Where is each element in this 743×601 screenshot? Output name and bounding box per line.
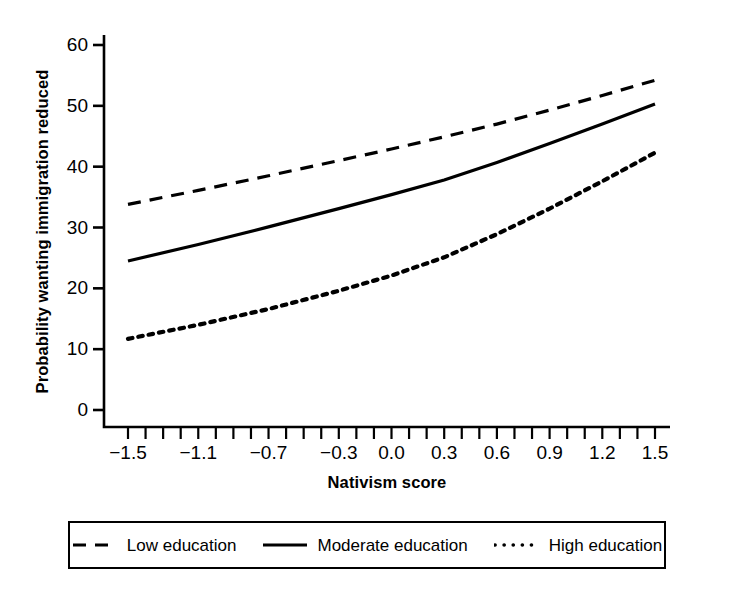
legend-line-swatch-dashed [72,540,118,550]
y-tick-label: 50 [44,96,88,115]
series-line [128,153,655,339]
y-tick-label: 40 [44,157,88,176]
y-tick-label: 0 [44,400,88,419]
series-line [128,104,655,261]
series-line [128,80,655,204]
legend-line-swatch-dotted [494,540,540,550]
plot-area [0,0,743,601]
x-tick-label: −1.5 [93,443,163,462]
y-tick-label: 10 [44,339,88,358]
x-axis-title: Nativism score [104,473,670,492]
x-tick-label-group: −1.5−1.1−0.7−0.30.00.30.60.91.21.5 [0,443,743,469]
y-tick-label-group: 0102030405060 [44,0,88,601]
legend-entry[interactable]: Moderate education [262,537,467,554]
x-tick-label: −0.7 [234,443,304,462]
axis-ticks [93,45,655,439]
x-tick-label: 1.5 [620,443,690,462]
legend-items: Low educationModerate educationHigh educ… [72,537,662,554]
y-tick-label: 30 [44,218,88,237]
legend: Low educationModerate educationHigh educ… [68,521,666,569]
legend-entry[interactable]: High education [494,537,662,554]
y-tick-label: 60 [44,35,88,54]
y-tick-label: 20 [44,278,88,297]
legend-label: Low education [127,537,237,554]
chart-figure: Probability wanting immigration reduced … [0,0,743,601]
x-tick-label: −1.1 [163,443,233,462]
legend-line-swatch-solid [262,540,308,550]
legend-label: Moderate education [317,537,467,554]
axis-lines [104,35,670,427]
legend-entry[interactable]: Low education [72,537,237,554]
data-series-group [128,80,655,339]
legend-label: High education [549,537,662,554]
